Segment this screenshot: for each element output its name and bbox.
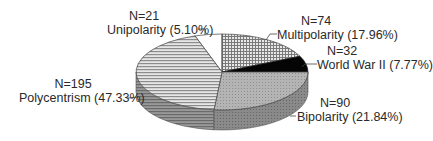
label-multipolarity: Multipolarity (17.96%) <box>277 28 398 42</box>
label-multipolarity-n: N=74 <box>296 14 336 28</box>
label-bipolarity-n: N=90 <box>315 96 355 110</box>
label-bipolarity: Bipolarity (21.84%) <box>297 110 403 124</box>
label-polycentrism-n: N=195 <box>48 77 98 91</box>
leader-multipolarity <box>266 34 277 40</box>
label-world-war-ii-n: N=32 <box>322 44 362 58</box>
label-unipolarity: Unipolarity (5.10%) <box>107 23 213 37</box>
label-unipolarity-n: N=21 <box>124 9 164 23</box>
label-world-war-ii: World War II (7.77%) <box>317 58 433 72</box>
label-polycentrism: Polycentrism (47.33%) <box>19 91 145 105</box>
